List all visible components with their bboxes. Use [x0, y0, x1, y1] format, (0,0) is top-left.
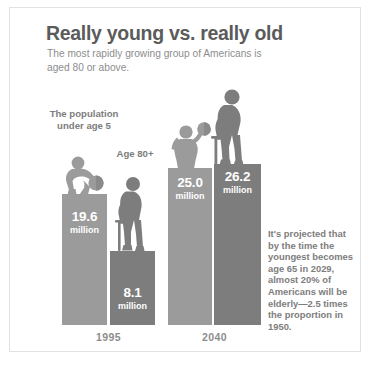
bar-value-label: 19.6 million [62, 210, 107, 235]
bar-1995-age-80-plus: 8.1 million [110, 251, 155, 325]
axis-label-2040: 2040 [168, 331, 261, 343]
bar-value-number: 8.1 [110, 286, 155, 300]
bar-value-unit: million [110, 301, 155, 311]
projection-note: It's projected that by the time the youn… [268, 228, 354, 332]
bar-value-label: 25.0 million [168, 176, 212, 201]
axis-label-1995: 1995 [62, 331, 155, 343]
child-holding-ball-up-icon [169, 122, 211, 170]
page-title: Really young vs. really old [46, 22, 283, 45]
bar-value-unit: million [62, 225, 107, 235]
label-age-80-plus: Age 80+ [114, 148, 156, 160]
bar-value-number: 25.0 [168, 176, 212, 190]
bar-value-number: 26.2 [214, 170, 261, 184]
bar-value-label: 26.2 million [214, 170, 261, 195]
bar-value-label: 8.1 million [110, 286, 155, 311]
page-subtitle: The most rapidly growing group of Americ… [47, 47, 279, 75]
bar-value-number: 19.6 [62, 210, 107, 224]
toddler-with-ball-icon [61, 156, 107, 196]
infographic-root: Really young vs. really old The most rap… [0, 0, 376, 367]
bar-value-unit: million [168, 191, 212, 201]
bar-2040-under-age-5: 25.0 million [168, 168, 212, 325]
bar-value-unit: million [214, 185, 261, 195]
elder-with-cane-icon [112, 176, 152, 254]
elder-with-cane-icon [206, 88, 252, 168]
label-under-age-5: The population under age 5 [48, 108, 120, 131]
bar-1995-under-age-5: 19.6 million [62, 194, 107, 325]
bar-2040-age-80-plus: 26.2 million [214, 164, 261, 325]
